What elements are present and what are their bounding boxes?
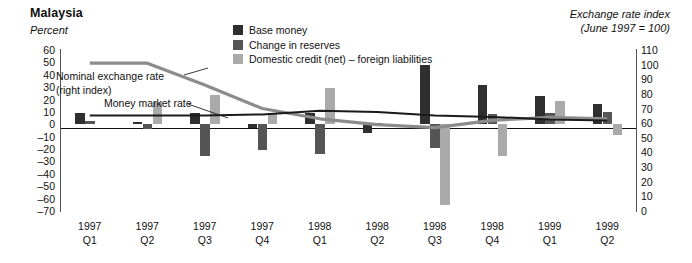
bar-base-money [75, 113, 85, 124]
left-axis-tick-label: 20 [25, 95, 55, 106]
left-axis-tick-label: –60 [25, 194, 55, 205]
right-axis-tick-label: 30 [641, 162, 671, 173]
x-axis-tick-label: 1999Q2 [572, 219, 642, 247]
right-axis-title-line1: Exchange rate index [570, 7, 670, 21]
chart-figure: Malaysia Percent Exchange rate index (Ju… [0, 0, 692, 263]
bar-domestic-credit [613, 124, 623, 135]
bar-change-in-reserves [85, 121, 95, 125]
bar-change-in-reserves [430, 124, 440, 148]
left-axis-units-label: Percent [30, 24, 68, 36]
bar-base-money [133, 122, 143, 124]
chart-title: Malaysia [30, 6, 83, 20]
right-axis-tick-label: 80 [641, 89, 671, 100]
left-axis-tick-label: 50 [25, 57, 55, 68]
bar-change-in-reserves [488, 114, 498, 124]
right-axis-line [636, 49, 637, 212]
bar-change-in-reserves [373, 123, 383, 124]
bar-base-money [248, 124, 258, 128]
left-axis-tick-label: –40 [25, 169, 55, 180]
left-axis-tick-label: –30 [25, 156, 55, 167]
right-axis-tick-label: 110 [641, 45, 671, 56]
right-axis-title: Exchange rate index (June 1997 = 100) [570, 7, 670, 35]
bar-domestic-credit [440, 124, 450, 205]
right-axis-tick-label: 10 [641, 191, 671, 202]
annotation-money-market-rate: Money market rate [104, 97, 192, 111]
right-axis-tick-label: 70 [641, 104, 671, 115]
legend-item-label: Base money [249, 23, 307, 38]
bar-base-money [363, 124, 373, 133]
bar-domestic-credit [325, 88, 335, 124]
left-axis-tick-label: –20 [25, 144, 55, 155]
annotation-nominal-exchange-rate-line2: (right index) [56, 84, 164, 98]
right-axis-tick-label: 20 [641, 177, 671, 188]
x-axis-tick-quarter: Q2 [572, 233, 642, 247]
left-axis-tick-label: 10 [25, 107, 55, 118]
legend-item: Base money [233, 23, 432, 38]
bar-base-money [478, 85, 488, 125]
left-axis-tick-label: –10 [25, 132, 55, 143]
bar-change-in-reserves [545, 113, 555, 124]
bar-domestic-credit [498, 124, 508, 156]
bar-change-in-reserves [200, 124, 210, 156]
bar-change-in-reserves [603, 112, 613, 124]
legend-swatch-change-in-reserves [233, 40, 243, 50]
left-axis-tick-label: 30 [25, 82, 55, 93]
right-axis-tick-label: 40 [641, 147, 671, 158]
right-axis-tick-label: 60 [641, 118, 671, 129]
legend-swatch-base-money [233, 25, 243, 35]
bar-change-in-reserves [315, 124, 325, 154]
bar-change-in-reserves [258, 124, 268, 150]
left-axis-tick-label: –50 [25, 181, 55, 192]
left-axis-tick-label: 60 [25, 45, 55, 56]
right-axis-title-line2: (June 1997 = 100) [570, 21, 670, 35]
bar-domestic-credit [555, 101, 565, 125]
bar-base-money [190, 113, 200, 124]
bar-base-money [305, 113, 315, 124]
annotation-nominal-exchange-rate-line1: Nominal exchange rate [56, 70, 164, 84]
annotation-money-market-rate-line1: Money market rate [104, 97, 192, 111]
right-axis-tick-label: 90 [641, 74, 671, 85]
right-axis-tick-label: 50 [641, 133, 671, 144]
bar-base-money [593, 104, 603, 124]
left-axis-tick-label: 40 [25, 70, 55, 81]
left-axis-tick-label: –70 [25, 206, 55, 217]
right-axis-tick-label: 100 [641, 60, 671, 71]
right-axis-tick-label: 0 [641, 206, 671, 217]
annotation-nominal-exchange-rate: Nominal exchange rate (right index) [56, 70, 164, 97]
bar-base-money [535, 96, 545, 124]
bar-change-in-reserves [143, 124, 153, 129]
bar-base-money [420, 65, 430, 124]
bar-domestic-credit [268, 113, 278, 124]
left-axis-tick-label: 0 [25, 119, 55, 130]
bar-domestic-credit [210, 95, 220, 125]
x-axis-tick-year: 1999 [572, 219, 642, 233]
